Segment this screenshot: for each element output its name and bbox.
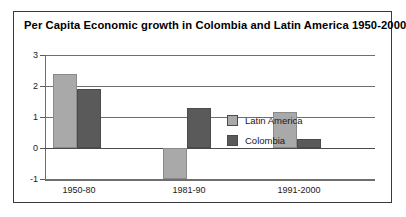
y-tick-label: 2	[33, 81, 38, 91]
y-tick-mark	[40, 86, 45, 87]
bar-1950-80-colombia	[77, 89, 101, 148]
y-tick-label: 3	[33, 50, 38, 60]
legend-label-latin-america: Latin America	[245, 115, 303, 126]
y-tick-mark	[40, 55, 45, 56]
y-tick-mark	[40, 179, 45, 180]
legend-item-latin-america: Latin America	[227, 110, 303, 130]
gridline	[45, 179, 375, 180]
chart-title: Per Capita Economic growth in Colombia a…	[24, 19, 384, 31]
chart-figure: Per Capita Economic growth in Colombia a…	[13, 11, 392, 203]
y-tick-label: 1	[33, 112, 38, 122]
legend-swatch-latin-america	[227, 115, 238, 126]
x-axis-line	[45, 180, 375, 181]
bar-1981-90-latin-america	[163, 148, 187, 179]
bar-1981-90-colombia	[187, 108, 211, 148]
x-tick-label: 1981-90	[172, 185, 205, 195]
y-tick-label: 0	[33, 143, 38, 153]
gridline	[45, 86, 375, 87]
chart-legend: Latin America Colombia	[227, 110, 303, 150]
legend-swatch-colombia	[227, 135, 238, 146]
y-tick-mark	[40, 117, 45, 118]
plot-area: 3210-1	[45, 55, 375, 179]
x-tick-label: 1991-2000	[277, 185, 320, 195]
x-tick-label: 1950-80	[62, 185, 95, 195]
gridline	[45, 148, 375, 149]
y-tick-label: -1	[30, 174, 38, 184]
legend-label-colombia: Colombia	[245, 135, 285, 146]
legend-item-colombia: Colombia	[227, 130, 303, 150]
bar-1950-80-latin-america	[53, 74, 77, 148]
gridline	[45, 55, 375, 56]
y-tick-mark	[40, 148, 45, 149]
